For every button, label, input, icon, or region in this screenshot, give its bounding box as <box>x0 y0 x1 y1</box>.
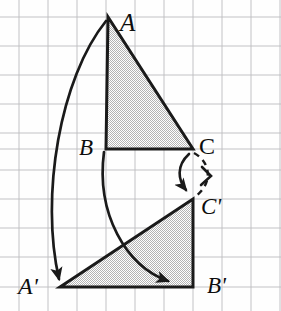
triangle-abc <box>106 17 193 149</box>
vertex-label-a-prime: A' <box>18 274 38 298</box>
vertex-label-c: C <box>199 134 215 158</box>
figure-canvas <box>0 0 281 311</box>
vertex-label-b-prime: B' <box>207 274 226 297</box>
triangle-apbpcp <box>60 199 193 287</box>
geometry-figure: A B C A' B' C' <box>0 0 281 311</box>
vertex-label-c-prime: C' <box>201 195 221 218</box>
vertex-label-b: B <box>79 136 93 159</box>
vertex-label-a: A <box>120 10 135 35</box>
arc-c-to-cp <box>180 154 189 190</box>
arc-c-to-cp-dashed <box>194 153 208 196</box>
